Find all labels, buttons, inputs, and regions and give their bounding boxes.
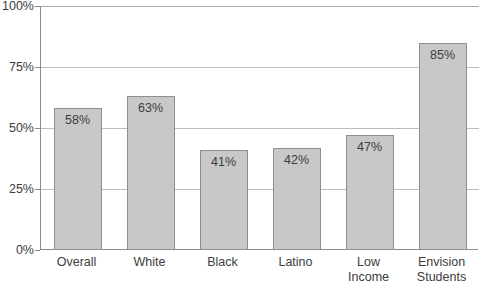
bar-value-label: 85% xyxy=(420,49,466,63)
bar-value-label: 58% xyxy=(55,114,101,128)
bar-value-label: 42% xyxy=(274,154,320,168)
bar-value-label: 47% xyxy=(347,141,393,155)
x-label-black: Black xyxy=(186,255,259,270)
x-label-envision-students: Envision Students xyxy=(405,255,478,285)
x-label-white: White xyxy=(113,255,186,270)
y-tick-mark-0 xyxy=(35,250,40,251)
plot-area: 58%63%41%42%47%85% xyxy=(40,6,478,250)
y-tick-label-100: 100% xyxy=(0,0,34,13)
bar-overall: 58% xyxy=(54,108,102,250)
bar-low-income: 47% xyxy=(346,135,394,250)
bars-group: 58%63%41%42%47%85% xyxy=(41,6,479,250)
y-tick-label-25: 25% xyxy=(0,183,34,196)
bar-value-label: 63% xyxy=(128,102,174,116)
x-label-low-income: Low Income xyxy=(332,255,405,285)
bar-latino: 42% xyxy=(273,148,321,250)
chart-caption xyxy=(0,288,488,298)
y-tick-label-75: 75% xyxy=(0,61,34,74)
x-label-latino: Latino xyxy=(259,255,332,270)
x-label-overall: Overall xyxy=(40,255,113,270)
bar-value-label: 41% xyxy=(201,156,247,170)
y-tick-label-0: 0% xyxy=(0,244,34,257)
bar-chart: 0%25%50%75%100% 58%63%41%42%47%85% Overa… xyxy=(0,0,488,298)
bar-envision-students: 85% xyxy=(419,43,467,250)
y-tick-label-50: 50% xyxy=(0,122,34,135)
bar-white: 63% xyxy=(127,96,175,250)
bar-black: 41% xyxy=(200,150,248,250)
